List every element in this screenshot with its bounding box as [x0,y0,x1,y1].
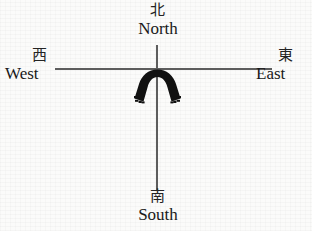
direction-label-south-roman: South [126,206,190,223]
direction-label-west: 西 West [2,48,64,82]
horseshoe-arch-shape [133,68,182,106]
direction-label-south-cjk: 南 [126,189,190,204]
direction-label-east-roman: East [256,65,312,82]
direction-label-south: 南 South [126,189,190,223]
compass-diagram: 北 North 西 West 東 East 南 South [0,0,312,231]
direction-label-north-roman: North [126,20,190,37]
direction-label-west-cjk: 西 [16,48,64,63]
direction-label-north-cjk: 北 [126,3,190,18]
direction-label-north: 北 North [126,3,190,37]
direction-label-west-roman: West [5,65,64,82]
direction-label-east: 東 East [252,48,312,82]
north-south-axis-line [156,45,158,190]
direction-label-east-cjk: 東 [260,48,312,63]
